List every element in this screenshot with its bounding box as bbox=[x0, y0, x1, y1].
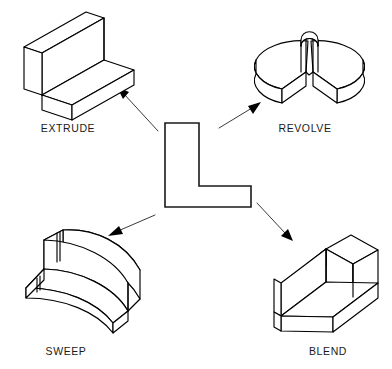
revolve-solid bbox=[254, 32, 364, 103]
arrow-to-sweep bbox=[108, 215, 155, 236]
sweep-solid bbox=[26, 230, 140, 333]
diagram-canvas: EXTRUDE REVOLVE bbox=[0, 0, 392, 369]
arrow-to-revolve bbox=[219, 102, 261, 128]
arrow-to-extrude bbox=[117, 87, 158, 131]
center-l-profile bbox=[165, 123, 251, 207]
blend-solid bbox=[274, 235, 378, 332]
label-blend: BLEND bbox=[309, 345, 347, 357]
label-revolve: REVOLVE bbox=[278, 122, 331, 134]
label-extrude: EXTRUDE bbox=[41, 122, 95, 134]
solid-modeling-diagram: EXTRUDE REVOLVE bbox=[0, 0, 392, 369]
extrude-solid bbox=[24, 12, 134, 120]
arrow-to-blend bbox=[257, 203, 293, 241]
label-sweep: SWEEP bbox=[46, 345, 87, 357]
